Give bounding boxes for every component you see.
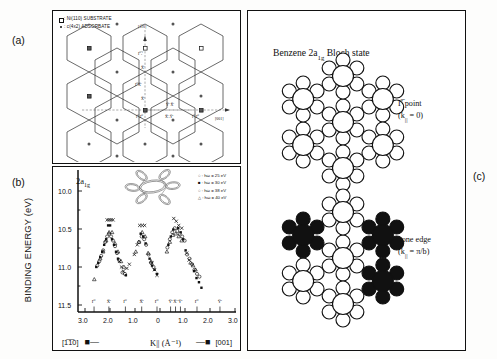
y-tick-label-2: 11.0 [58,264,71,271]
zone-label-5: Y̅' X̅' [166,102,174,107]
lobe-circle [376,76,390,90]
benzene-molecule-5 [282,258,324,304]
lobe-circle [296,154,310,168]
benzene-molecule-0 [322,235,364,281]
data-point [184,249,186,251]
data-point [171,231,174,234]
data-point [111,218,114,221]
center-circle [293,135,314,156]
series-2 [106,217,191,277]
data-point [175,220,178,223]
data-point [97,262,99,264]
zone-label-2: Γ̅'X̅' [135,82,142,87]
lobe-circle [376,122,390,136]
y-tick-label-1: 10.5 [58,226,72,233]
panel-a-lattice-diagram: [1̅1̅0] [001] [52,10,239,162]
x-tick-label-3: 0 [156,317,160,324]
data-point [180,227,183,230]
direction-label-110: [1̅1̅0] [138,24,146,29]
lobe-circle [336,281,350,295]
data-point [110,230,114,233]
symmetry-label-2: Γ̅' [123,299,128,304]
lobe-circle [336,235,350,249]
series-0 [96,227,201,279]
data-point [148,257,150,259]
lobe-circle [296,76,310,90]
lobe-circle [296,258,310,272]
center-circle [372,225,393,246]
lobe-circle [376,154,390,168]
lobe-circle [336,131,350,145]
data-point [125,274,127,276]
data-point [136,243,139,246]
data-point [198,281,200,283]
center-circle [372,89,393,110]
lobe-circle [336,313,350,327]
zone-label-3: X̅' [141,96,145,101]
data-point [200,287,202,289]
benzene-molecule-4 [322,281,364,327]
center-circle [372,271,393,292]
panel-label-a: (a) [12,34,25,46]
data-point [195,277,197,279]
center-circle [293,271,314,292]
x-tick-label-4: 1.0 [178,317,188,324]
data-point [133,253,136,256]
data-point [151,264,153,266]
data-point [140,230,144,233]
data-point [143,224,146,227]
x-tick-label-0: 3.0 [78,317,88,324]
data-point [128,263,131,266]
zone-label-0: Γ̅'ₓ̅' [138,51,143,56]
symmetry-label-1: X̅' [106,299,111,304]
zone-label-6: X̅'ₓY̅' [165,114,173,119]
center-circle [293,225,314,246]
benzene-molecule-0 [322,99,364,145]
zone-label-7: Γ̅'ₓΓ̅' [192,114,199,119]
data-point [144,242,146,244]
lobe-circle [336,85,350,99]
panel-c-gamma-label-1: Γ̅ point [398,99,422,108]
lobe-circle [376,212,390,226]
lobe-circle [336,189,350,203]
y-tick-label-3: 11.5 [58,302,71,309]
center-circle [333,158,354,179]
symmetry-label-8: Γ̅' [195,299,200,304]
symmetry-point-labels: Γ̅'X̅'Γ̅'X̅'Γ̅'Y̅'X̅'Y̅'Γ̅'Y̅' [92,299,222,304]
data-point [181,235,184,238]
y-tick-label-0: 10.0 [58,188,72,195]
data-point [172,228,174,230]
data-point [119,260,123,263]
center-circle [372,135,393,156]
symmetry-label-4: Γ̅' [155,299,160,304]
symmetry-label-9: Y̅' [218,299,223,304]
data-point [116,250,120,253]
lobe-circle [296,122,310,136]
direction-arrow-head [143,36,147,41]
lobe-circle [376,108,390,122]
data-point [143,235,147,238]
lobe-circle [336,99,350,113]
data-point [106,235,109,238]
lobe-circle [296,108,310,122]
lobe-circle [336,145,350,159]
symmetry-label-5: Y̅' [168,299,173,304]
panel-c-bloch-state-diagram: Benzene 2a1g Bloch state Γ̅ point (k|| =… [247,10,464,349]
panel-label-c: (c) [473,170,485,182]
benzene-molecule-3 [362,258,404,304]
benzene-molecule-4 [322,145,364,191]
lobe-circle [296,212,310,226]
center-circle [293,89,314,110]
panel-b-y-axis-title: BINDING ENERGY (eV) [23,170,33,330]
lobe-circle [336,267,350,281]
data-point [134,250,138,253]
lobe-circle [376,290,390,304]
data-point [198,275,201,278]
symmetry-label-7: Y̅' [178,299,183,304]
zone-label-1: X̅' [141,65,145,70]
center-circle [333,294,354,315]
data-point [177,224,180,227]
benzene-molecule-6 [282,212,324,258]
data-point [167,244,169,246]
panel-c-gamma-label-2: (k|| = 0) [398,111,423,123]
